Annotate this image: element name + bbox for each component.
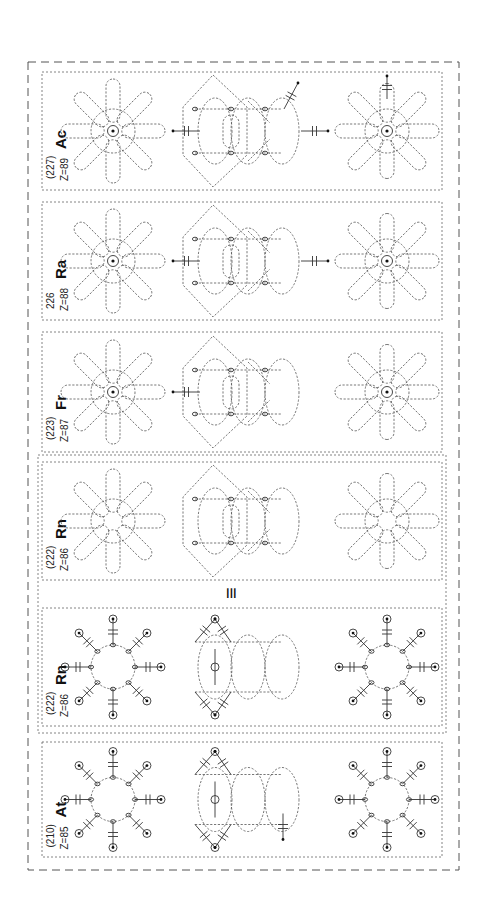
arrow-tip [172,391,175,394]
panel-frame [42,202,442,320]
arrow-tip [146,832,149,835]
bond [195,752,215,775]
cloud-lobe [335,385,378,399]
ring [365,778,409,822]
element-symbol: Fr [52,395,69,410]
panel-frame [42,462,442,580]
arrow-tip [434,798,437,801]
hatch-mark [288,92,297,97]
sphere-1 [198,488,232,554]
arrow-tip [112,750,115,753]
arrow-tip [420,632,423,635]
nucleus-dot-icon [111,259,114,262]
arrow-tip [420,700,423,703]
arrow-tip [172,130,175,133]
arrow-tip [352,632,355,635]
cloud-lobe [122,124,165,138]
cloud-lobe [335,124,378,138]
atomic-number: Z=86 [59,547,70,571]
sphere-1 [198,228,232,294]
electron-cloud-hybrid [183,75,299,187]
arrow-tip [160,666,163,669]
arrow-tip [352,832,355,835]
cloud-lobe [106,270,120,313]
arrow-tip [434,666,437,669]
arrow-tip [78,700,81,703]
hatch-mark [220,762,228,768]
panel-frame [42,608,442,726]
orbital-ring [61,615,165,719]
panel-fr: Fr(223)Z=87 [42,332,442,452]
outer-frame [28,62,459,870]
mass-number: (222) [45,546,56,569]
ring [91,778,135,822]
arrow-tip [214,846,217,849]
cloud-lobe [335,514,378,528]
orbital-ring [335,748,439,852]
hatch-mark [200,761,208,768]
orbital-hybrid [195,615,299,719]
hatch-mark [218,835,226,841]
arrow-tip [172,260,175,263]
cloud-lobe [122,514,165,528]
sphere-2 [231,98,265,164]
nucleus-dot-icon [385,390,388,393]
arrow-tip [78,764,81,767]
cloud-lobe [335,254,378,268]
sphere-2 [231,359,265,425]
cloud-lobe [122,254,165,268]
cloud-lobe [396,385,439,399]
panel-ac: Ac(227)Z=89 [42,72,442,190]
arrow-tip [78,832,81,835]
arrow-tip [386,750,389,753]
arrow-tip [420,832,423,835]
nucleus-dot-icon [111,129,114,132]
panel-at: At(210)Z=85 [42,742,442,857]
cloud-lobe [396,254,439,268]
sphere-2 [231,635,265,699]
sphere-3 [265,228,299,294]
electron-cloud-hybrid [183,465,299,577]
sphere-2 [231,768,265,832]
arrow-tip [146,632,149,635]
cloud-lobe [106,79,120,122]
hatch-mark [203,626,211,633]
orbital-ring [61,748,165,852]
arrow-tip [214,618,217,621]
arrow-tip [214,750,217,753]
arrow-tip [327,130,330,133]
panel-ra: Ra226Z=88 [42,202,442,320]
cloud-lobe [106,401,120,444]
arrow-tip [420,764,423,767]
hatch-mark [200,831,208,838]
arrow-tip [352,700,355,703]
element-symbol: Ac [52,130,69,149]
hatch-mark [218,702,226,708]
hatch-mark [220,699,228,705]
arrow-tip [386,846,389,849]
hatch-mark [200,699,208,706]
arrow-tip [64,666,67,669]
cloud-core-fill [91,499,135,543]
arrow-tip [327,260,330,263]
atomic-number: Z=86 [59,693,70,717]
atomic-number: Z=89 [59,157,70,181]
element-symbol: Rn [52,665,69,685]
mass-number: 226 [45,292,56,309]
electron-cloud-star [335,474,439,569]
cloud-lobe [106,209,120,252]
arrow-tip [112,846,115,849]
panel-frame [42,332,442,452]
sphere-1 [198,98,232,164]
diamond-envelope [183,465,247,577]
element-symbol: Ra [52,259,69,279]
nucleus-dot-icon [385,129,388,132]
rn-equivalence-frame [38,455,446,733]
cloud-lobe [396,514,439,528]
cloud-lobe [106,140,120,183]
cloud-lobe [106,340,120,383]
arrow-tip [214,714,217,717]
electron-cloud-hybrid [183,336,299,448]
cloud-lobe [106,469,120,512]
hatch-mark [218,759,226,765]
